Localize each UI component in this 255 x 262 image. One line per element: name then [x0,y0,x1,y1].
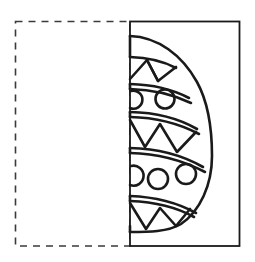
blank-panel-dashed-border [16,22,131,247]
symmetry-worksheet: Symmetry drawing worksheet [0,0,255,262]
worksheet-canvas [0,0,255,262]
blank-mirror-panel[interactable] [16,22,131,247]
